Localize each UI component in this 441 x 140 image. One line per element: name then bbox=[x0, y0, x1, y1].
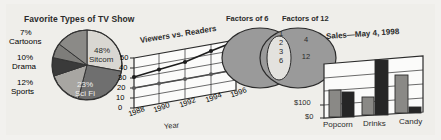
line-ytick-50: 50 bbox=[120, 53, 128, 62]
bar-drinks-series-a bbox=[362, 97, 374, 115]
datapoint-readers-1990 bbox=[157, 82, 161, 86]
bar-chart-title: Sales—May 4, 1998 bbox=[326, 27, 400, 41]
datapoint-viewers-1988 bbox=[132, 75, 136, 79]
pie-callout-sports-name: Sports bbox=[11, 87, 34, 97]
line-ytick-20: 20 bbox=[117, 83, 125, 92]
venn-left-title: Factors of 6 bbox=[226, 14, 269, 23]
pie-callout-cartoons-name: Cartoons bbox=[9, 37, 41, 47]
bar-category-popcorn: Popcorn bbox=[323, 120, 353, 129]
datapoint-viewers-1994 bbox=[209, 49, 213, 53]
line-ytick-0: 0 bbox=[118, 103, 122, 112]
bar-category-drinks: Drinks bbox=[363, 119, 386, 128]
bar-popcorn-series-b bbox=[342, 92, 354, 117]
bar-category-candy: Candy bbox=[399, 117, 422, 126]
venn-intersection-3: 3 bbox=[276, 47, 286, 56]
venn-right-title: Factors of 12 bbox=[282, 14, 329, 23]
bar-chart: Sales—May 4, 1998 $100 bbox=[306, 24, 435, 135]
line-ytick-30: 30 bbox=[118, 73, 126, 82]
datapoint-viewers-1990 bbox=[157, 67, 161, 71]
pie-label-sitcom-pct: 48% bbox=[94, 46, 110, 55]
bar-drinks-series-b bbox=[375, 60, 388, 115]
datapoint-readers-1992 bbox=[183, 77, 187, 81]
pie-label-sitcom-name: Sitcom bbox=[89, 55, 113, 64]
bar-candy-series-b bbox=[409, 107, 421, 113]
venn-intersection-6: 6 bbox=[276, 56, 286, 65]
image-frame: Favorite Types of TV Show 48% Sitcom bbox=[0, 0, 441, 140]
bar-popcorn-series-a bbox=[329, 90, 341, 117]
worksheet-page: Favorite Types of TV Show 48% Sitcom bbox=[6, 4, 435, 135]
line-xaxis-label: Year bbox=[164, 120, 180, 131]
bar-ytick-100: $100 bbox=[294, 98, 311, 107]
pie-label-scifi-pct: 23% bbox=[77, 80, 93, 89]
datapoint-readers-1988 bbox=[132, 86, 136, 90]
venn-intersection-1: 1 bbox=[276, 29, 286, 38]
pie-callout-drama-name: Drama bbox=[12, 62, 36, 72]
venn-intersection-2: 2 bbox=[276, 38, 286, 47]
pie-label-scifi-name: Sci Fi bbox=[75, 89, 95, 98]
datapoint-viewers-1992 bbox=[183, 60, 187, 64]
line-ytick-10: 10 bbox=[116, 93, 124, 102]
bar-ytick-0: $0 bbox=[305, 112, 313, 121]
line-ytick-40: 40 bbox=[119, 63, 127, 72]
datapoint-readers-1994 bbox=[209, 72, 213, 76]
bar-candy-series-a bbox=[395, 75, 408, 113]
